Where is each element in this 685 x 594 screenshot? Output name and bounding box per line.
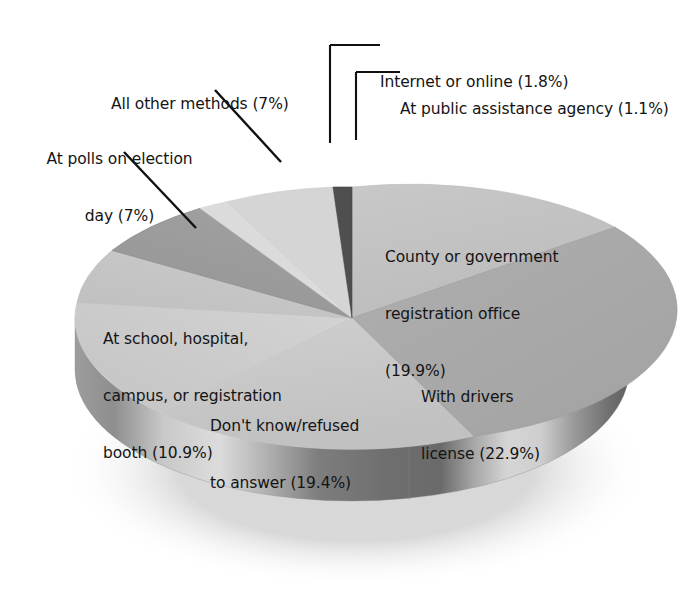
label-dont-know-refused-line2: to answer (19.4%) xyxy=(210,474,359,493)
label-county-line1: County or government xyxy=(385,248,558,267)
label-county-line2: registration office xyxy=(385,305,558,324)
label-dont-know-refused: Don't know/refused to answer (19.4%) xyxy=(210,379,359,531)
label-with-drivers-license-line2: license (22.9%) xyxy=(421,445,540,464)
label-at-polls-on-election-day: At polls on election day (7%) xyxy=(22,112,217,264)
pie-chart-page: Internet or online (1.8%) At public assi… xyxy=(0,0,685,594)
label-at-public-assistance-agency-line1: At public assistance agency (1.1%) xyxy=(400,100,669,119)
label-at-polls-on-election-day-line2: day (7%) xyxy=(22,207,217,226)
label-at-public-assistance-agency: At public assistance agency (1.1%) xyxy=(400,62,669,157)
label-with-drivers-license: With drivers license (22.9%) xyxy=(421,350,540,502)
label-at-polls-on-election-day-line1: At polls on election xyxy=(22,150,217,169)
label-at-school-hospital-campus-line1: At school, hospital, xyxy=(103,330,282,349)
label-dont-know-refused-line1: Don't know/refused xyxy=(210,417,359,436)
label-with-drivers-license-line1: With drivers xyxy=(421,388,540,407)
